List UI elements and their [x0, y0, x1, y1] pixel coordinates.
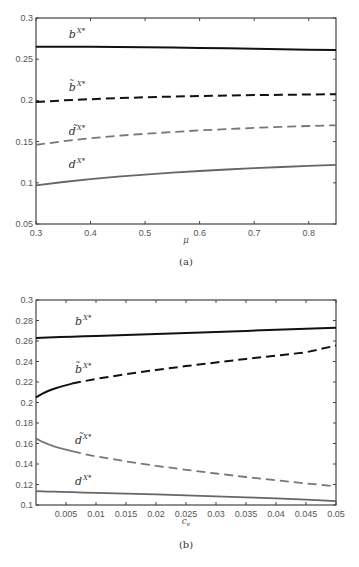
- y-tick-label: 0.1: [20, 500, 33, 510]
- y-tick-label: 0.3: [20, 13, 33, 23]
- series-label: dX*: [69, 157, 86, 171]
- series-label: bX*: [69, 27, 86, 41]
- series-line-dashed: [36, 94, 336, 102]
- series-label: b̃X*: [75, 361, 92, 375]
- x-tick-label: 0.7: [248, 228, 261, 238]
- x-tick-label: 0.03: [207, 509, 225, 519]
- x-tick-label: 0.4: [84, 228, 97, 238]
- y-tick-label: 0.2: [20, 95, 33, 105]
- y-tick-label: 0.28: [15, 316, 33, 326]
- y-tick-label: 0.1: [20, 178, 33, 188]
- y-tick-label: 0.16: [15, 439, 33, 449]
- chart-panel-b: 0.0050.010.0150.020.0250.030.0350.040.04…: [15, 295, 344, 550]
- x-tick-label: 0.015: [115, 509, 138, 519]
- series-line: [36, 384, 72, 398]
- series-line-dashed: [72, 346, 336, 384]
- x-tick-label: 0.035: [235, 509, 258, 519]
- series-label: d̃X*: [69, 124, 86, 138]
- y-tick-label: 0.12: [15, 480, 33, 490]
- series-label: d̃X*: [75, 432, 92, 446]
- x-tick-label: 0.04: [267, 509, 285, 519]
- x-tick-label: 0.005: [55, 509, 78, 519]
- series-line: [36, 47, 336, 50]
- series-label: b̃X*: [69, 79, 86, 93]
- chart-panel-a: 0.30.40.50.60.70.80.050.10.150.20.250.3b…: [15, 13, 336, 267]
- x-tick-label: 0.3: [30, 228, 43, 238]
- series-line: [36, 491, 336, 501]
- series-label: bX*: [75, 314, 92, 328]
- series-line: [36, 328, 336, 338]
- series-line-dashed: [72, 451, 336, 486]
- y-tick-label: 0.05: [15, 219, 33, 229]
- figure-caption: (b): [179, 539, 193, 550]
- y-tick-label: 0.3: [20, 295, 33, 305]
- y-tick-label: 0.22: [15, 377, 33, 387]
- y-tick-label: 0.26: [15, 336, 33, 346]
- series-line: [36, 165, 336, 186]
- y-tick-label: 0.18: [15, 418, 33, 428]
- series-line: [36, 438, 72, 451]
- x-tick-label: 0.02: [147, 509, 165, 519]
- figure: 0.30.40.50.60.70.80.050.10.150.20.250.3b…: [0, 0, 359, 567]
- x-tick-label: 0.05: [327, 509, 345, 519]
- x-tick-label: 0.01: [87, 509, 105, 519]
- y-tick-label: 0.2: [20, 398, 33, 408]
- y-tick-label: 0.25: [15, 54, 33, 64]
- y-tick-label: 0.24: [15, 357, 33, 367]
- y-tick-label: 0.15: [15, 137, 33, 147]
- figure-caption: (a): [179, 256, 193, 267]
- x-tick-label: 0.8: [302, 228, 315, 238]
- x-tick-label: 0.045: [295, 509, 318, 519]
- series-label: dX*: [75, 474, 92, 488]
- y-tick-label: 0.14: [15, 459, 33, 469]
- x-tick-label: 0.5: [139, 228, 152, 238]
- x-axis-label: μ: [183, 235, 189, 245]
- x-tick-label: 0.6: [193, 228, 206, 238]
